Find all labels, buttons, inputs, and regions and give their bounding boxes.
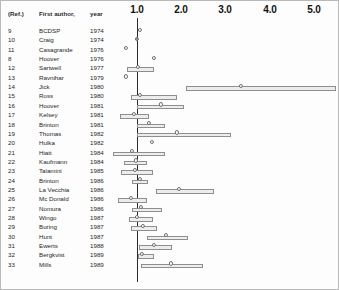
cell-author: Kelsey [39,111,58,118]
cell-author: Nomura [39,205,61,212]
cell-author: Hunt [39,233,52,240]
cell-reference: 32 [8,251,15,258]
cell-author: Brinton [39,177,59,184]
column-header-reference: (Ref.) [8,10,24,17]
cell-year: 1987 [90,233,104,240]
point-estimate-marker [124,74,128,78]
cell-reference: 20 [8,139,15,146]
column-header-author: First author, [39,10,75,17]
cell-year: 1976 [90,55,104,62]
cell-reference: 9 [8,27,11,34]
cell-author: Hiatt [39,149,52,156]
cell-author: Hoover [39,102,59,109]
cell-reference: 18 [8,121,15,128]
cell-reference: 19 [8,130,15,137]
cell-year: 1974 [90,36,104,43]
cell-year: 1984 [90,149,104,156]
cell-reference: 14 [8,83,15,90]
cell-reference: 11 [8,46,14,53]
cell-year: 1986 [90,195,104,202]
cell-reference: 21 [8,149,15,156]
cell-year: 1987 [90,214,104,221]
point-estimate-marker [152,56,156,60]
cell-reference: 13 [8,74,15,81]
point-estimate-marker [138,28,142,32]
cell-reference: 22 [8,158,15,165]
cell-reference: 24 [8,177,15,184]
cell-year: 1981 [90,111,104,118]
cell-year: 1981 [90,102,104,109]
x-axis-tick-2-0: 2.0 [174,4,187,15]
cell-year: 1984 [90,158,104,165]
cell-author: Thomas [39,130,61,137]
cell-author: Jick [39,83,50,90]
cell-year: 1982 [90,139,104,146]
cell-reference: 23 [8,167,15,174]
cell-reference: 12 [8,64,15,71]
cell-author: Hoover [39,55,59,62]
cell-year: 1980 [90,92,104,99]
cell-author: BCDSP [39,27,60,34]
cell-year: 1986 [90,186,104,193]
cell-author: Kaufmann [39,158,67,165]
cell-author: Mills [39,261,51,268]
cell-author: Sartwell [39,64,61,71]
cell-year: 1987 [90,223,104,230]
column-header-year: year [90,10,103,17]
cell-reference: 27 [8,205,15,212]
cell-author: Ross [39,92,53,99]
cell-year: 1982 [90,130,104,137]
x-axis-tick-4-0: 4.0 [263,4,276,15]
cell-author: Craig [39,36,54,43]
cell-author: Wingo [39,214,57,221]
cell-author: La Vecchia [39,186,69,193]
cell-author: Hulka [39,139,55,146]
cell-reference: 8 [8,55,11,62]
point-estimate-marker [150,140,154,144]
x-axis-tick-5-0: 5.0 [307,4,320,15]
cell-year: 1989 [90,251,104,258]
cell-author: Casagrande [39,46,73,53]
cell-author: Brinton [39,121,59,128]
cell-year: 1989 [90,261,104,268]
cell-year: 1979 [90,74,104,81]
cell-author: Mc Donald [39,195,69,202]
cell-reference: 15 [8,92,15,99]
cell-reference: 29 [8,223,15,230]
cell-author: Buring [39,223,57,230]
cell-reference: 16 [8,102,15,109]
cell-reference: 30 [8,233,15,240]
cell-reference: 10 [8,36,15,43]
cell-year: 1988 [90,242,104,249]
cell-year: 1981 [90,121,104,128]
cell-reference: 28 [8,214,15,221]
point-estimate-marker [135,37,139,41]
table-row: 33Mills1989 [1,259,338,270]
cell-reference: 25 [8,186,15,193]
cell-year: 1974 [90,27,104,34]
cell-reference: 31 [8,242,15,249]
point-estimate-marker [124,46,128,50]
x-axis-tick-1-0: 1.0 [130,4,143,15]
cell-year: 1986 [90,205,104,212]
cell-reference: 17 [8,111,15,118]
cell-year: 1976 [90,46,104,53]
cell-author: Bergkvist [39,251,64,258]
cell-reference: 33 [8,261,15,268]
forest-plot-figure: (Ref.) First author, year 1.02.03.04.05.… [0,0,339,290]
cell-author: Talamini [39,167,62,174]
cell-year: 1985 [90,167,104,174]
cell-year: 1980 [90,83,104,90]
cell-author: Ravnihar [39,74,64,81]
x-axis-tick-3-0: 3.0 [218,4,231,15]
cell-year: 1986 [90,177,104,184]
cell-author: Ewerts [39,242,58,249]
cell-year: 1977 [90,64,104,71]
cell-reference: 26 [8,195,15,202]
